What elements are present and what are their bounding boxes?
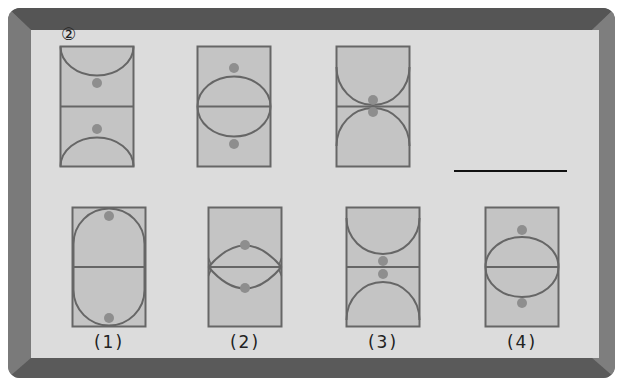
- choice-figure-2[interactable]: [207, 206, 283, 328]
- answer-blank-line[interactable]: [454, 170, 567, 172]
- choice-label-4: (4): [482, 332, 562, 352]
- choice-label-2: (2): [205, 332, 285, 352]
- choice-label-3: (3): [343, 332, 423, 352]
- sequence-figure-3: [335, 45, 411, 168]
- choice-figure-3[interactable]: [345, 206, 421, 328]
- question-number: ②: [61, 24, 76, 44]
- sequence-figure-1: [59, 45, 135, 168]
- choice-figure-1[interactable]: [71, 206, 147, 328]
- sequence-figure-2: [196, 45, 272, 168]
- choice-figure-4[interactable]: [484, 206, 560, 328]
- choice-label-1: (1): [69, 332, 149, 352]
